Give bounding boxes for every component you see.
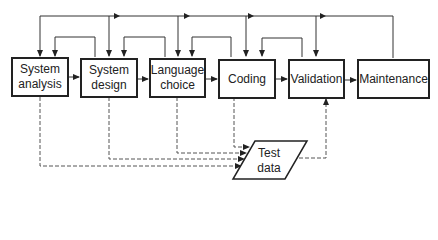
stage-system-design: Systemdesign (80, 58, 138, 98)
stage-maintenance: Maintenance (357, 59, 430, 99)
stage-validation: Validation (288, 59, 345, 99)
stage-label: choice (160, 78, 195, 92)
stage-system-analysis: Systemanalysis (11, 57, 69, 97)
stage-label: System (89, 63, 129, 77)
stage-language-choice: Languagechoice (149, 58, 206, 98)
test-data-label: Test data (247, 146, 291, 176)
test-data-line2: data (257, 161, 280, 175)
test-data-line1: Test (258, 146, 280, 160)
stage-label: Validation (291, 72, 343, 87)
stage-label: analysis (18, 77, 61, 91)
stage-label: Language (151, 63, 204, 77)
stage-label: System (20, 62, 60, 76)
stage-label: Maintenance (359, 72, 428, 87)
stage-label: design (91, 78, 126, 92)
stage-label: Coding (228, 72, 266, 87)
stage-coding: Coding (218, 59, 276, 99)
